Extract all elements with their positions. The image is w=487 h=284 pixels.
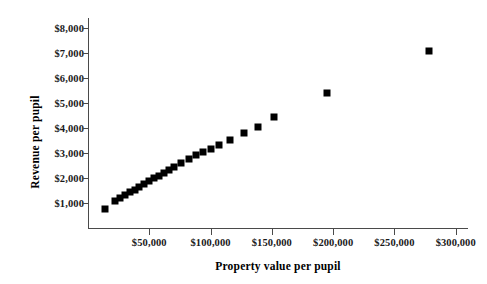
y-axis-tick	[82, 128, 88, 129]
y-axis-tick-label: $2,000	[55, 173, 84, 184]
y-axis-tick-label: $7,000	[55, 48, 84, 59]
x-axis-tick	[456, 229, 457, 235]
x-axis-tick-label: $100,000	[190, 237, 230, 248]
x-axis-title: Property value per pupil	[88, 260, 468, 272]
data-point	[192, 152, 199, 159]
y-axis-tick-label: $8,000	[55, 23, 84, 34]
y-axis-tick	[82, 203, 88, 204]
data-point	[102, 205, 109, 212]
x-axis-tick	[272, 229, 273, 235]
y-axis-tick-labels: $1,000$2,000$3,000$4,000$5,000$6,000$7,0…	[0, 18, 84, 229]
y-axis-tick	[82, 178, 88, 179]
y-axis-tick	[82, 53, 88, 54]
data-point	[216, 141, 223, 148]
y-axis-tick-label: $3,000	[55, 148, 84, 159]
y-axis-tick-label: $4,000	[55, 123, 84, 134]
data-point	[240, 130, 247, 137]
data-point	[425, 47, 432, 54]
data-point	[207, 145, 214, 152]
y-axis-tick	[82, 78, 88, 79]
data-point	[200, 148, 207, 155]
x-axis-tick	[149, 229, 150, 235]
data-point	[185, 155, 192, 162]
y-axis-tick	[82, 103, 88, 104]
x-axis-tick-labels: $50,000$100,000$150,000$200,000$250,000$…	[88, 229, 468, 259]
data-point	[271, 113, 278, 120]
y-axis-tick	[82, 153, 88, 154]
data-point	[227, 137, 234, 144]
x-axis-tick-label: $200,000	[313, 237, 353, 248]
x-axis-tick-label: $300,000	[436, 237, 476, 248]
x-axis-tick-label: $250,000	[374, 237, 414, 248]
data-point	[324, 90, 331, 97]
x-axis-tick-label: $150,000	[252, 237, 292, 248]
x-axis-tick	[211, 229, 212, 235]
y-axis-tick-label: $5,000	[55, 98, 84, 109]
y-axis-tick	[82, 28, 88, 29]
x-axis-tick	[394, 229, 395, 235]
x-axis-tick-label: $50,000	[132, 237, 167, 248]
scatter-chart: Revenue per pupil $1,000$2,000$3,000$4,0…	[0, 0, 487, 284]
x-axis-tick	[333, 229, 334, 235]
y-axis-tick-label: $1,000	[55, 198, 84, 209]
data-point	[170, 164, 177, 171]
y-axis-tick-label: $6,000	[55, 73, 84, 84]
plot-area	[88, 18, 468, 228]
data-point	[178, 159, 185, 166]
data-point	[255, 123, 262, 130]
